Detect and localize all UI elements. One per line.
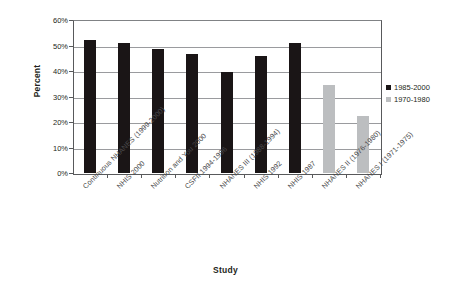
legend-label: 1985-2000 [394,83,430,92]
x-tick-mark [278,174,279,178]
y-tick-label: 50% [22,41,68,50]
x-tick-mark [175,174,176,178]
y-tick-label: 10% [22,143,68,152]
gridline [74,123,381,124]
legend-swatch-icon [386,97,391,102]
x-tick-mark [312,174,313,178]
x-tick-mark [244,174,245,178]
x-tick-mark [380,174,381,178]
y-tick-label: 0% [22,169,68,178]
gridline [74,72,381,73]
x-tick-mark [141,174,142,178]
y-tick-label: 30% [22,92,68,101]
legend-swatch-icon [386,85,391,90]
gridline [74,98,381,99]
bar-chart: Percent 0%10%20%30%40%50%60% Continuous … [0,0,451,287]
y-tick-label: 40% [22,67,68,76]
chart-legend: 1985-20001970-1980 [386,82,430,106]
legend-item: 1985-2000 [386,82,430,93]
y-tick-label: 20% [22,118,68,127]
legend-label: 1970-1980 [394,95,430,104]
gridline [74,47,381,48]
y-tick-label: 60% [22,16,68,25]
x-axis-title: Study [0,265,451,275]
legend-item: 1970-1980 [386,94,430,105]
x-tick-mark [209,174,210,178]
x-tick-mark [107,174,108,178]
x-tick-mark [346,174,347,178]
